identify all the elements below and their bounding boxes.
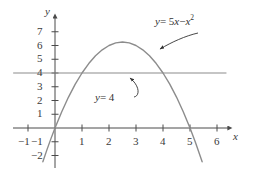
line-label-arrow <box>130 78 138 97</box>
curve-label-arrow <box>160 33 198 49</box>
curve-eq-operator: = 5 <box>160 15 174 27</box>
x-tick-label-6: 6 <box>214 136 220 147</box>
y-tick-label-minus-1: −1 <box>31 136 43 147</box>
curve-eq-exponent: 2 <box>190 13 194 22</box>
y-tick-label-1: 1 <box>37 108 43 119</box>
x-tick-label-5: 5 <box>187 136 193 147</box>
x-tick-label-1: 1 <box>79 136 85 147</box>
x-tick-label-4: 4 <box>160 136 166 147</box>
y-tick-label-minus-2: −2 <box>31 150 43 161</box>
y-tick-label-3: 3 <box>37 81 43 92</box>
y-tick-label-4: 4 <box>37 67 43 78</box>
figure-graph-parabola-and-line: y x 7 6 5 4 3 2 1 −1 −2 −1 1 2 3 4 5 6 y… <box>0 0 255 176</box>
y-tick-label-7: 7 <box>37 26 43 37</box>
y-tick-label-5: 5 <box>37 53 43 64</box>
y-tick-label-2: 2 <box>37 95 43 106</box>
curve-equation-label: y= 5x−x2 <box>155 16 194 27</box>
x-tick-label-minus-1: −1 <box>18 136 30 147</box>
x-tick-label-2: 2 <box>106 136 112 147</box>
series-parabola <box>43 42 202 162</box>
line-equation-label: y= 4 <box>95 92 114 103</box>
x-tick-label-3: 3 <box>133 136 139 147</box>
line-eq-operator: = 4 <box>100 91 114 103</box>
x-axis-label: x <box>233 131 238 142</box>
y-tick-label-6: 6 <box>37 40 43 51</box>
y-axis-label: y <box>45 6 50 17</box>
